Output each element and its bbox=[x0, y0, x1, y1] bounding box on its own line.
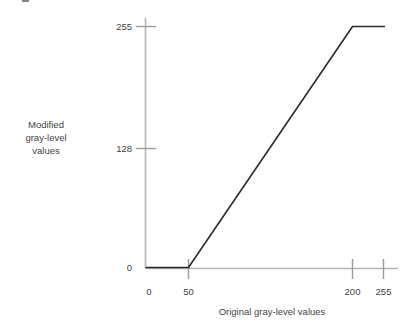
y-axis-title-line-1: Modified bbox=[4, 118, 88, 131]
transfer-function-curve bbox=[146, 27, 386, 268]
x-tick-label-50: 50 bbox=[183, 286, 194, 297]
x-tick-label-255: 255 bbox=[376, 286, 392, 297]
x-tick-label-200: 200 bbox=[345, 286, 361, 297]
y-tick-label-255: 255 bbox=[116, 21, 132, 32]
y-axis-title: Modified gray-level values bbox=[4, 118, 88, 157]
chart-page: 255 128 0 0 50 200 255 Original gray-lev… bbox=[0, 0, 411, 327]
transfer-function-chart: 255 128 0 0 50 200 255 Original gray-lev… bbox=[0, 0, 411, 327]
x-axis-title: Original gray-level values bbox=[219, 306, 326, 317]
y-tick-label-0: 0 bbox=[127, 262, 132, 273]
x-tick-label-0: 0 bbox=[146, 286, 151, 297]
y-axis-title-line-3: values bbox=[4, 144, 88, 157]
y-tick-label-128: 128 bbox=[116, 143, 132, 154]
y-axis-title-line-2: gray-level bbox=[4, 131, 88, 144]
